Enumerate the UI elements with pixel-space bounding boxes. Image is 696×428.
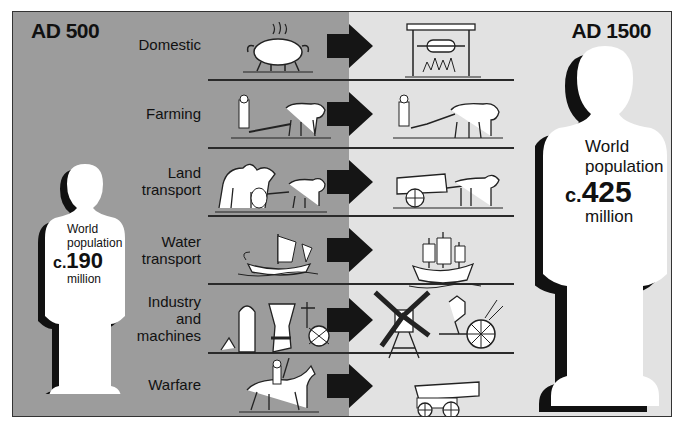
category-warfare: Warfare — [148, 376, 201, 393]
cannon-on-carriage-icon — [411, 380, 491, 417]
hearth-with-spit-icon — [405, 22, 481, 80]
population-label-ad500: World population c.190 million — [53, 222, 122, 286]
mounted-horseman-icon — [239, 358, 319, 414]
category-water-transport: Water transport — [142, 233, 201, 267]
arrow-right-icon — [327, 24, 379, 68]
windmill-and-waterwheel-icon — [373, 290, 503, 362]
arrow-right-icon — [327, 160, 379, 204]
population-label-ad1500: World population c.425 million — [565, 137, 663, 227]
era-label-left: AD 500 — [31, 19, 99, 43]
man-with-ox-plough-icon — [231, 94, 331, 142]
arrow-right-icon — [327, 92, 379, 136]
row-divider — [208, 147, 514, 149]
population-value-ad1500: 425 — [582, 175, 632, 208]
category-industry-machines: Industry and machines — [137, 293, 201, 344]
arrow-right-icon — [327, 228, 379, 272]
category-land-transport: Land transport — [142, 164, 201, 198]
arrow-right-icon — [327, 298, 379, 342]
furnace-and-waterwheel-icon — [213, 292, 333, 356]
man-with-two-oxen-plough-icon — [393, 92, 503, 142]
diagram-frame: AD 500 AD 1500 Domestic Farming Land tra… — [12, 11, 672, 417]
category-farming: Farming — [146, 105, 201, 122]
category-domestic: Domestic — [138, 36, 201, 53]
small-sailing-ship-icon — [238, 230, 323, 278]
cauldron-icon — [233, 22, 323, 74]
population-value-ad500: 190 — [66, 248, 103, 273]
horse-drawn-wagon-icon — [393, 166, 503, 212]
camel-and-ox-cart-icon — [211, 160, 331, 216]
arrow-right-icon — [327, 364, 379, 408]
population-figure-ad1500-icon — [535, 44, 672, 412]
carrack-ship-icon — [409, 230, 481, 292]
era-label-right: AD 1500 — [572, 19, 651, 43]
